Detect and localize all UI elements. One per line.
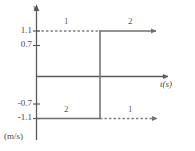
segment-label-bottom-left: 2 [64, 104, 69, 114]
y-tick-label-0.7: 0.7 [3, 39, 32, 49]
y-tick-label-neg0.7: -0.7 [1, 98, 32, 108]
velocity-time-graph-figure: 1.1 0.7 -0.7 -1.1 1 2 2 1 v t(s) (m/s) [0, 0, 195, 151]
segment-label-top-right: 2 [128, 16, 133, 26]
segment-label-top-left: 1 [64, 16, 69, 26]
plot-canvas [0, 0, 195, 151]
segment-label-bottom-right: 1 [128, 104, 133, 114]
y-axis-label: v [33, 2, 37, 12]
x-axis-label: t(s) [160, 79, 172, 89]
y-tick-label-1.1: 1.1 [3, 25, 32, 35]
y-axis-unit-label: (m/s) [4, 131, 23, 141]
y-tick-label-neg1.1: -1.1 [1, 112, 32, 122]
